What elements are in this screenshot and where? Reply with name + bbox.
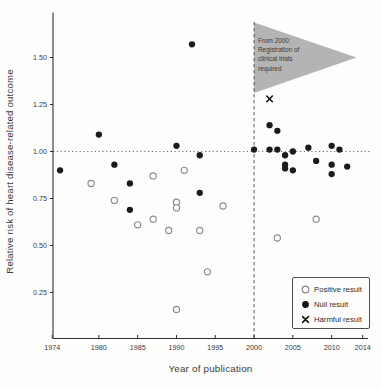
data-point-positive (166, 227, 172, 233)
data-point-positive (204, 269, 210, 275)
data-point-null (305, 145, 311, 151)
legend-label: Null result (314, 300, 348, 309)
data-point-null (329, 171, 335, 177)
x-tick-label: 1974 (44, 343, 60, 352)
y-tick-label: 1.00 (33, 147, 47, 156)
y-tick-label: 1.25 (33, 100, 47, 109)
data-point-null (266, 122, 272, 128)
x-tick-label: 2005 (285, 343, 301, 352)
x-tick-label: 2010 (324, 343, 340, 352)
x-tick-label: 2000 (246, 343, 262, 352)
legend-label: Positive result (314, 285, 362, 294)
filled-circle-icon (300, 299, 311, 310)
legend-item-harmful: Harmful result (300, 312, 369, 327)
data-point-null (290, 148, 296, 154)
data-point-positive (220, 203, 226, 209)
y-axis-label: Relative risk of heart disease-related o… (4, 17, 15, 327)
data-point-null (344, 163, 350, 169)
data-point-null (329, 143, 335, 149)
legend-label: Harmful result (314, 315, 362, 324)
data-point-null (197, 190, 203, 196)
x-axis-label: Year of publication (53, 363, 368, 374)
legend-item-null: Null result (300, 297, 369, 312)
x-tick-label: 1980 (91, 343, 107, 352)
data-point-null (189, 41, 195, 47)
data-point-positive (173, 205, 179, 211)
data-point-positive (150, 173, 156, 179)
data-point-positive (135, 222, 141, 228)
data-point-null (290, 167, 296, 173)
data-point-null (251, 146, 257, 152)
data-point-null (96, 131, 102, 137)
data-point-positive (197, 227, 203, 233)
data-point-null (57, 167, 63, 173)
x-cross-icon (300, 314, 311, 325)
data-point-null (111, 162, 117, 168)
open-circle-icon (300, 284, 311, 295)
data-point-positive (150, 216, 156, 222)
x-tick-label: 1995 (207, 343, 223, 352)
annotation-line: Registration of (258, 45, 328, 54)
data-point-harmful (267, 96, 273, 102)
y-tick-label: 0.25 (33, 288, 47, 297)
data-point-null (127, 207, 133, 213)
data-point-null (282, 165, 288, 171)
y-tick-label: 1.50 (33, 53, 47, 62)
data-point-positive (313, 216, 319, 222)
trial-registration-annotation: From 2000: Registration of clinical tria… (258, 36, 328, 73)
x-tick-label: 1990 (168, 343, 184, 352)
data-point-positive (88, 180, 94, 186)
data-point-null (282, 152, 288, 158)
data-point-null (127, 180, 133, 186)
y-tick-label: 0.50 (33, 241, 47, 250)
data-point-positive (181, 167, 187, 173)
data-point-null (266, 146, 272, 152)
data-point-null (336, 146, 342, 152)
x-tick-label: 2014 (355, 343, 371, 352)
x-tick-label: 1985 (130, 343, 146, 352)
data-point-null (173, 143, 179, 149)
annotation-line: clinical trials (258, 54, 328, 63)
legend: Positive result Null result Harmful resu… (292, 277, 370, 329)
legend-item-positive: Positive result (300, 282, 369, 297)
data-point-null (274, 128, 280, 134)
data-point-null (274, 146, 280, 152)
data-point-positive (274, 235, 280, 241)
data-point-positive (111, 197, 117, 203)
annotation-line: required (258, 64, 328, 73)
data-point-null (329, 162, 335, 168)
annotation-line: From 2000: (258, 36, 328, 45)
scatter-plot-figure: 0.250.500.751.001.251.501974198019851990… (0, 0, 381, 389)
data-point-null (313, 158, 319, 164)
y-tick-label: 0.75 (33, 194, 47, 203)
data-point-null (197, 152, 203, 158)
data-point-positive (173, 306, 179, 312)
